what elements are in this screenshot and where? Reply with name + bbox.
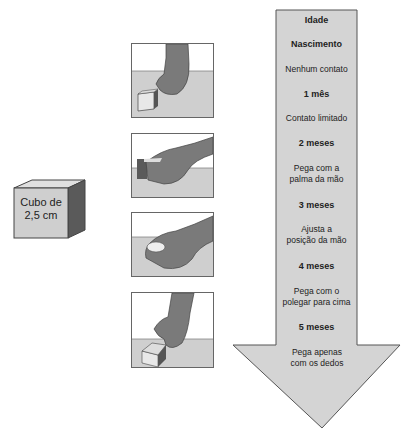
stage-desc: Contato limitado [276, 113, 357, 124]
stage-desc: Ajusta a posição da mão [276, 224, 357, 246]
arrow-header: Idade [276, 15, 357, 26]
stage-desc: Pega apenas com os dedos [256, 347, 378, 369]
age-label: Nascimento [276, 39, 357, 50]
stage-desc: Nenhum contato [276, 64, 357, 75]
age-label: 4 meses [276, 261, 357, 272]
age-label: 1 mês [276, 89, 357, 100]
age-label: 2 meses [276, 138, 357, 149]
stage-desc: Pega com o polegar para cima [276, 286, 357, 308]
stage-desc: Pega com a palma da mão [276, 163, 357, 185]
age-label: 3 meses [276, 200, 357, 211]
age-label: 5 meses [276, 322, 357, 333]
